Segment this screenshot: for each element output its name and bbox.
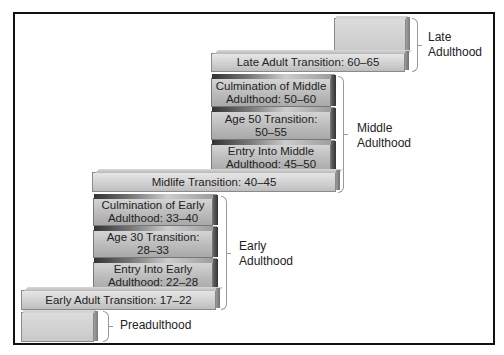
brace-tip [109,326,113,327]
stage-entry-early: Entry Into EarlyAdulthood: 22–28 [93,262,213,290]
stage-label: Entry Into MiddleAdulthood: 45–50 [226,145,316,171]
brace-tip [418,45,422,46]
brace-tip [344,134,348,135]
late-adulthood-block [334,18,406,53]
stage-label: Entry Into EarlyAdulthood: 22–28 [108,263,198,289]
stage-age-50-transition: Age 50 Transition:50–55 [211,111,331,140]
stage-label: Late Adult Transition: 60–65 [237,56,380,69]
stage-label: Culmination of MiddleAdulthood: 50–60 [216,80,327,106]
stage-label: Age 50 Transition:50–55 [225,113,318,139]
stage-late-adult-transition: Late Adult Transition: 60–65 [211,53,405,72]
stage-label: Age 30 Transition:28–33 [107,231,200,257]
stage-culmination-early: Culmination of EarlyAdulthood: 33–40 [93,198,213,226]
stage-midlife-transition: Midlife Transition: 40–45 [92,172,336,192]
stage-culmination-middle: Culmination of MiddleAdulthood: 50–60 [211,78,331,107]
stage-early-adult-transition: Early Adult Transition: 17–22 [21,290,216,310]
era-label-late: LateAdulthood [428,30,482,60]
preadulthood-block [21,312,94,342]
stage-label: Culmination of EarlyAdulthood: 33–40 [102,199,205,225]
brace-tip [227,253,231,254]
era-label-pre: Preadulthood [120,318,191,333]
era-label-early: EarlyAdulthood [239,239,293,269]
era-label-middle: MiddleAdulthood [357,121,411,151]
stage-entry-middle: Entry Into MiddleAdulthood: 45–50 [211,144,331,172]
stage-age-30-transition: Age 30 Transition:28–33 [93,230,213,258]
stage-label: Early Adult Transition: 17–22 [45,294,191,307]
stage-label: Midlife Transition: 40–45 [152,176,277,189]
